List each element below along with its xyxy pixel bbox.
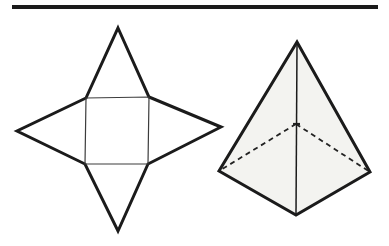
figure-canvas (0, 0, 389, 246)
pyramid-net-outline (17, 28, 221, 231)
pyramid-front-edge (296, 44, 297, 214)
pyramid-body (219, 42, 370, 215)
geometry-figure (0, 0, 389, 246)
